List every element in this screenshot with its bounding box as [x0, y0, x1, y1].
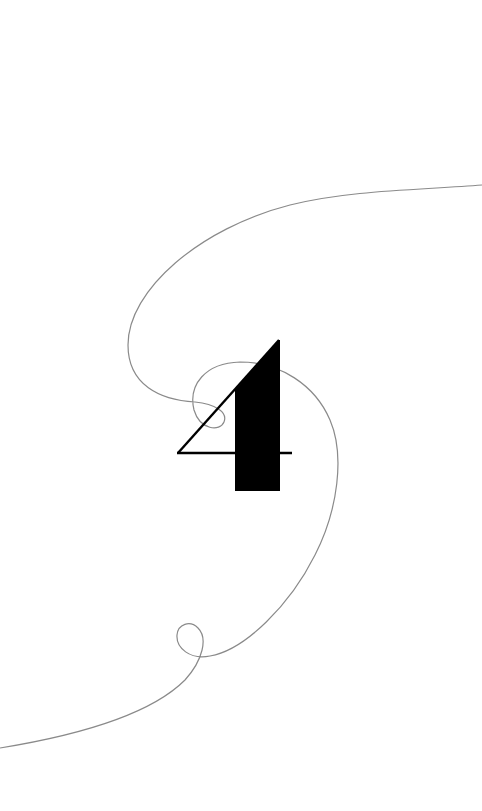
artwork-canvas: 4: [0, 0, 482, 811]
numeral-four-illustration: [0, 0, 482, 811]
